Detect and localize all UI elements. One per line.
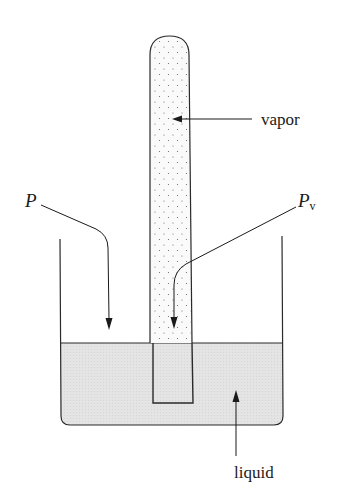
liquid-body [61, 343, 283, 425]
vapor-pressure-diagram: vapor P Pv liquid [0, 0, 339, 501]
vapor-pressure-label: Pv [297, 190, 316, 213]
pressure-arrow [41, 205, 109, 319]
vapor-pressure-subscript: v [310, 199, 316, 213]
vapor-pressure-arrow [174, 207, 296, 318]
vapor-label: vapor [261, 110, 300, 129]
vapor-pressure-symbol: P [297, 190, 310, 211]
liquid-label: liquid [234, 463, 274, 482]
pressure-label: P [24, 190, 37, 211]
vapor-dots [151, 37, 191, 343]
pressure-arrowhead-icon [106, 318, 113, 330]
